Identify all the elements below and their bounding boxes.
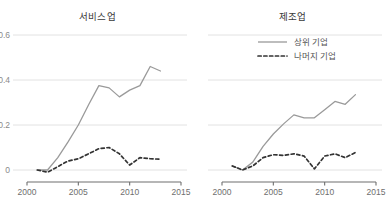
plot-area-services: 0.60.40.202000200520102015 [0, 0, 195, 209]
y-axis-tick-label: 0.6 [0, 30, 10, 40]
y-axis-tick-label: 0.4 [0, 75, 10, 85]
chart-figure: 서비스업 0.60.40.202000200520102015 제조업 2000… [0, 0, 390, 209]
panel-manufacturing: 제조업 2000200520102015상위 기업나머지 기업 [195, 0, 390, 209]
legend-label-top-firms: 상위 기업 [294, 37, 328, 47]
x-axis-tick-label: 2010 [120, 187, 139, 197]
x-axis-tick-label: 2005 [264, 187, 283, 197]
data-series-line-top-firms [232, 95, 355, 170]
y-axis-tick-label: 0.2 [0, 120, 10, 130]
x-axis-tick-label: 2015 [367, 187, 386, 197]
x-axis-tick-label: 2010 [315, 187, 334, 197]
data-series-line-other-firms [232, 152, 355, 170]
data-series-line-top-firms [37, 67, 160, 171]
y-axis-tick-label: 0 [5, 165, 10, 175]
legend-label-other-firms: 나머지 기업 [294, 51, 336, 61]
x-axis-tick-label: 2015 [172, 187, 191, 197]
plot-area-manufacturing: 2000200520102015상위 기업나머지 기업 [195, 0, 390, 209]
x-axis-tick-label: 2000 [18, 187, 37, 197]
x-axis-tick-label: 2005 [69, 187, 88, 197]
panel-services: 서비스업 0.60.40.202000200520102015 [0, 0, 195, 209]
x-axis-tick-label: 2000 [213, 187, 232, 197]
